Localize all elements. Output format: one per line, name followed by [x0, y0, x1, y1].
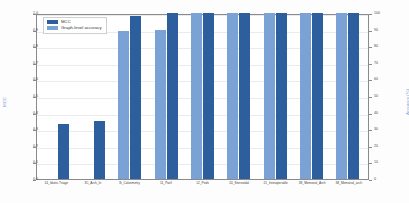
bar-graph-level-accuracy	[264, 13, 275, 179]
bar-group	[148, 15, 184, 179]
y-tick-mark-left	[33, 97, 36, 98]
x-tick-label: 14_Idiotic Triage	[38, 182, 75, 185]
y-tick-label-right: 90	[374, 29, 378, 33]
y-tick-label-right: 10	[374, 162, 378, 166]
y-axis-title-left: MCC	[2, 97, 7, 107]
y-tick-mark-left	[33, 14, 36, 15]
plot-area	[36, 14, 369, 180]
legend-label: MCC	[61, 20, 71, 24]
chart-figure: MCC Accuracy (%) 0.00.10.20.30.40.50.60.…	[0, 0, 409, 203]
chart-legend: MCCGraph-level accuracy	[43, 17, 107, 34]
bar-graph-level-accuracy	[300, 13, 311, 179]
bar-graph-level-accuracy	[227, 13, 238, 179]
y-axis-title-right: Accuracy (%)	[404, 88, 409, 114]
y-tick-label-right: 20	[374, 145, 378, 149]
legend-label: Graph-level accuracy	[61, 26, 102, 30]
legend-item: Graph-level accuracy	[47, 26, 102, 30]
bar-group	[221, 15, 257, 179]
y-tick-mark-right	[369, 97, 372, 98]
y-tick-mark-left	[33, 147, 36, 148]
y-tick-mark-right	[369, 64, 372, 65]
y-tick-mark-left	[33, 180, 36, 181]
bar-group	[330, 15, 366, 179]
y-tick-label-right: 50	[374, 95, 378, 99]
y-tick-label-right: 70	[374, 62, 378, 66]
bar-graph-level-accuracy	[191, 13, 202, 179]
bar-mcc	[203, 13, 214, 179]
y-tick-mark-left	[33, 163, 36, 164]
y-tick-mark-right	[369, 180, 372, 181]
y-tick-mark-left	[33, 47, 36, 48]
y-tick-mark-left	[33, 130, 36, 131]
bar-groups	[37, 15, 368, 179]
legend-swatch-mcc	[47, 20, 58, 24]
bar-mcc	[239, 13, 250, 179]
bar-mcc	[312, 13, 323, 179]
y-tick-mark-left	[33, 114, 36, 115]
x-tick-label: 11_PartI	[148, 182, 185, 185]
y-tick-mark-left	[33, 80, 36, 81]
x-tick-label: 20_Stereoidal	[221, 182, 258, 185]
y-tick-mark-right	[369, 47, 372, 48]
y-tick-label-right: 0	[374, 178, 376, 182]
y-tick-mark-right	[369, 130, 372, 131]
legend-item: MCC	[47, 20, 102, 24]
y-tick-mark-right	[369, 163, 372, 164]
bar-mcc	[130, 16, 141, 179]
bar-mcc	[167, 13, 178, 179]
bar-mcc	[276, 13, 287, 179]
y-tick-label-right: 30	[374, 128, 378, 132]
x-axis-labels: 14_Idiotic Triage3C_Arch_In3t_Calorimetr…	[36, 182, 369, 185]
x-tick-label: 3t_Calorimetry	[111, 182, 148, 185]
x-tick-label: 38_Memorial_arch	[331, 182, 368, 185]
x-tick-label: 3C_Arch_In	[75, 182, 112, 185]
bar-group	[112, 15, 148, 179]
y-tick-mark-left	[33, 31, 36, 32]
bar-group	[293, 15, 329, 179]
x-tick-label: 21_Interoperable	[257, 182, 294, 185]
bar-group	[75, 15, 111, 179]
bar-group	[257, 15, 293, 179]
bar-mcc	[58, 124, 69, 179]
y-tick-mark-right	[369, 147, 372, 148]
bar-graph-level-accuracy	[336, 13, 347, 179]
y-tick-label-right: 100	[374, 12, 380, 16]
y-tick-mark-left	[33, 64, 36, 65]
bar-mcc	[94, 121, 105, 179]
y-tick-mark-right	[369, 14, 372, 15]
y-tick-label-right: 40	[374, 112, 378, 116]
bar-graph-level-accuracy	[155, 30, 166, 179]
y-tick-mark-right	[369, 31, 372, 32]
bar-group	[184, 15, 220, 179]
x-tick-label: 38_Memorial_Arch	[294, 182, 331, 185]
y-tick-label-right: 80	[374, 45, 378, 49]
legend-swatch-accuracy	[47, 26, 58, 30]
bar-mcc	[348, 13, 359, 179]
x-tick-label: 12_Peds	[184, 182, 221, 185]
y-tick-mark-right	[369, 80, 372, 81]
y-tick-mark-right	[369, 114, 372, 115]
y-tick-label-right: 60	[374, 79, 378, 83]
bar-graph-level-accuracy	[118, 31, 129, 179]
bar-group	[39, 15, 75, 179]
